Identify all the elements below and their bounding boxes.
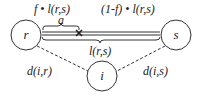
node-i-label: i [92, 69, 112, 82]
label-lrs: l(r,s) [89, 45, 111, 57]
label-1mf-lrs: (1-f) • l(r,s) [101, 3, 155, 15]
label-f-lrs: f • l(r,s) [34, 3, 70, 15]
node-s-label: s [166, 28, 186, 41]
label-dis: d(i,s) [143, 65, 168, 77]
label-dir: d(i,r) [27, 65, 52, 77]
label-a: a [58, 14, 64, 26]
node-r-label: r [16, 28, 36, 41]
brace-lrs [42, 37, 160, 43]
